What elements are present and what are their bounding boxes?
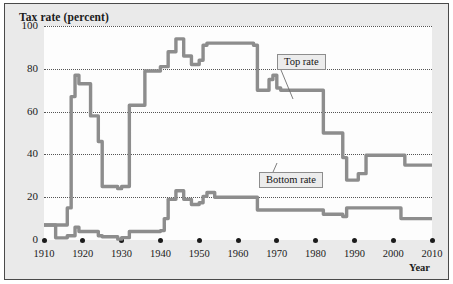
x-tick-label-1990: 1990 [334, 248, 374, 259]
x-tick-label-1930: 1930 [102, 248, 142, 259]
x-tick-marker-2010 [430, 238, 435, 243]
x-tick-marker-1980 [313, 238, 318, 243]
x-tick-label-1970: 1970 [257, 248, 297, 259]
x-tick-marker-1940 [158, 238, 163, 243]
x-tick-label-2000: 2000 [373, 248, 413, 259]
tax-rate-chart-figure: Tax rate (percent) 020406080100 19101920… [0, 0, 453, 284]
x-tick-marker-1920 [80, 238, 85, 243]
callout-bottom-rate: Bottom rate [259, 172, 323, 188]
x-tick-marker-1950 [197, 238, 202, 243]
x-tick-marker-1960 [236, 238, 241, 243]
y-tick-label-40: 40 [12, 147, 38, 159]
x-tick-label-1910: 1910 [24, 248, 64, 259]
x-tick-label-1950: 1950 [179, 248, 219, 259]
y-tick-label-20: 20 [12, 190, 38, 202]
gridline-y-20 [44, 197, 432, 198]
callout-top-rate: Top rate [277, 54, 326, 70]
y-tick-label-0: 0 [12, 233, 38, 245]
x-tick-marker-1990 [352, 238, 357, 243]
gridline-y-100 [44, 26, 432, 27]
x-tick-label-1940: 1940 [140, 248, 180, 259]
x-tick-marker-1910 [42, 238, 47, 243]
gridline-y-80 [44, 69, 432, 70]
y-tick-label-80: 80 [12, 62, 38, 74]
x-tick-label-1980: 1980 [296, 248, 336, 259]
x-tick-label-2010: 2010 [412, 248, 452, 259]
x-axis-label: Year [409, 262, 430, 273]
x-tick-marker-2000 [391, 238, 396, 243]
gridline-y-40 [44, 154, 432, 155]
x-tick-marker-1970 [274, 238, 279, 243]
gridline-y-60 [44, 112, 432, 113]
x-tick-marker-1930 [119, 238, 124, 243]
y-tick-label-60: 60 [12, 105, 38, 117]
y-tick-label-100: 100 [12, 19, 38, 31]
x-tick-label-1920: 1920 [63, 248, 103, 259]
x-tick-label-1960: 1960 [218, 248, 258, 259]
plot-area [44, 26, 432, 240]
